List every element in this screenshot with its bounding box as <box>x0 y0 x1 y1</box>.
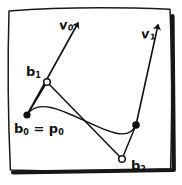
label-b2-subscript: 2 <box>140 165 146 174</box>
label-b0-equals-p0: b0 = p0 <box>14 122 64 135</box>
label-v1-subscript: 1 <box>149 33 156 43</box>
label-b2: b2 <box>131 159 146 172</box>
point-marker-b2 <box>119 156 126 163</box>
point-marker-b1 <box>44 79 51 86</box>
point-marker-b0 <box>23 111 30 118</box>
label-b1-subscript: 1 <box>35 71 41 80</box>
label-v1: v1 <box>140 26 155 40</box>
label-v0: v0 <box>58 17 74 32</box>
bezier-diagram: v0 v1 b1 b0 = p0 b2 <box>0 0 182 185</box>
label-v0-subscript: 0 <box>67 23 74 33</box>
point-marker-p1 <box>132 121 140 129</box>
label-p0-subscript: 0 <box>58 128 64 137</box>
label-b0-base: b <box>14 121 23 136</box>
label-b0-equals-p: = p <box>29 121 58 136</box>
diagram-canvas <box>0 0 182 185</box>
label-b1-base: b <box>26 64 35 79</box>
label-b0-subscript: 0 <box>23 128 29 137</box>
label-b1: b1 <box>26 65 41 78</box>
label-b2-base: b <box>131 158 140 173</box>
